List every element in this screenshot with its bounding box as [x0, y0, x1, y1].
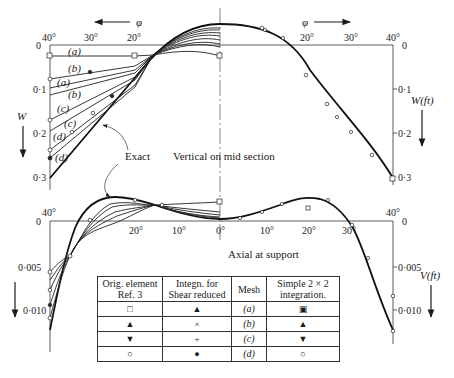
legend-mesh-label: (b) — [232, 317, 267, 332]
filled-circle-marker-icon: ● — [163, 347, 232, 362]
svg-text:40°: 40° — [42, 207, 56, 218]
legend-mesh-label: (c) — [232, 332, 267, 347]
svg-text:10°: 10° — [172, 225, 186, 236]
top-panel: φ φ 40° 30° 20° 20° 30° 40° 0 0·1 0·2 0·… — [17, 8, 434, 240]
triangle-marker-icon: ▲ — [98, 317, 163, 332]
circle-marker-icon: ○ — [98, 347, 163, 362]
svg-text:0·3: 0·3 — [33, 172, 46, 183]
plus-marker-icon: + — [163, 332, 232, 347]
svg-text:0·1: 0·1 — [33, 84, 46, 95]
top-right-axis-label: W(ft) — [411, 94, 434, 107]
phi-arrow-left: φ — [95, 16, 142, 28]
svg-text:(c): (c) — [57, 102, 70, 115]
svg-text:0: 0 — [402, 216, 407, 227]
dotted-square-marker-icon: ▣ — [267, 302, 340, 317]
legend-row: ○ ● (d) ○ — [98, 347, 340, 362]
legend-header-mesh: Mesh — [232, 277, 267, 302]
svg-text:0·005: 0·005 — [18, 262, 41, 273]
inverted-triangle-marker-icon: ▼ — [267, 332, 340, 347]
square-marker-icon: □ — [98, 302, 163, 317]
legend-mesh-label: (d) — [232, 347, 267, 362]
svg-text:(d): (d) — [53, 130, 66, 143]
legend-header-reduced: Integn. for Shear reduced — [163, 277, 232, 302]
svg-text:0: 0 — [36, 216, 41, 227]
phi-label-left: φ — [136, 16, 142, 28]
legend-row: □ ▲ (a) ▣ — [98, 302, 340, 317]
svg-text:40°: 40° — [386, 32, 400, 43]
svg-text:0·010: 0·010 — [23, 305, 46, 316]
svg-text:10°: 10° — [260, 225, 274, 236]
svg-text:0: 0 — [402, 40, 407, 51]
legend-row: ▲ × (b) ▲ — [98, 317, 340, 332]
legend-mesh-label: (a) — [232, 302, 267, 317]
circle-marker-icon: ○ — [267, 347, 340, 362]
svg-text:(b): (b) — [68, 88, 81, 101]
svg-text:20°: 20° — [302, 225, 316, 236]
svg-text:0·010: 0·010 — [398, 305, 421, 316]
inverted-triangle-marker-icon: ▼ — [98, 332, 163, 347]
legend-header-orig: Orig. element Ref. 3 — [98, 277, 163, 302]
bottom-right-axis-label: V(ft) — [420, 269, 440, 282]
svg-text:20°: 20° — [129, 225, 143, 236]
svg-text:0°: 0° — [216, 225, 225, 236]
svg-text:30°: 30° — [344, 32, 358, 43]
top-panel-title: Vertical on mid section — [173, 150, 275, 162]
top-left-axis-label: W — [17, 110, 27, 122]
bottom-panel-title: Axial at support — [228, 248, 299, 260]
legend-table: Orig. element Ref. 3 Integn. for Shear r… — [97, 276, 340, 362]
svg-text:(d): (d) — [55, 151, 68, 164]
triangle-marker-icon: ▲ — [267, 317, 340, 332]
svg-text:0·2: 0·2 — [33, 128, 46, 139]
svg-text:20°: 20° — [127, 32, 141, 43]
svg-text:0·005: 0·005 — [398, 262, 421, 273]
svg-text:20°: 20° — [300, 32, 314, 43]
exact-label: Exact — [125, 150, 150, 162]
legend-header-simple: Simple 2 × 2 integration. — [267, 277, 340, 302]
svg-text:0·2: 0·2 — [398, 128, 411, 139]
svg-text:40°: 40° — [42, 32, 56, 43]
svg-text:0: 0 — [36, 40, 41, 51]
phi-arrow-right: φ — [302, 16, 308, 28]
svg-text:30°: 30° — [84, 32, 98, 43]
phi-label-right: φ — [302, 16, 308, 28]
legend-header-row: Orig. element Ref. 3 Integn. for Shear r… — [98, 277, 340, 302]
legend-row: ▼ + (c) ▼ — [98, 332, 340, 347]
svg-text:0·3: 0·3 — [398, 172, 411, 183]
svg-text:(a): (a) — [68, 45, 81, 58]
svg-text:0·1: 0·1 — [398, 84, 411, 95]
svg-text:(b): (b) — [68, 62, 81, 75]
svg-text:(c): (c) — [64, 117, 77, 130]
cross-marker-icon: × — [163, 317, 232, 332]
filled-triangle-marker-icon: ▲ — [163, 302, 232, 317]
svg-text:40°: 40° — [386, 207, 400, 218]
